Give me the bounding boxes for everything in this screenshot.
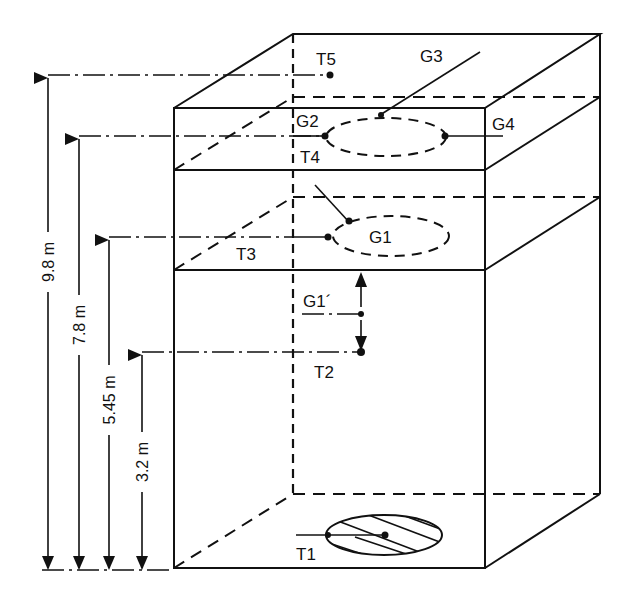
label-g4: G4 (492, 115, 515, 134)
sensor-g1-prime-t2: G1´ T2 (302, 272, 367, 382)
box-hidden-edges (174, 34, 600, 568)
dimension-7-8m: 7.8 m (71, 305, 88, 345)
label-t5: T5 (316, 50, 336, 69)
box-diagram: 9.8 m 7.8 m 5.45 m 3.2 m T5 G3 G2 (0, 0, 630, 604)
dimension-5-45m: 5.45 m (101, 376, 118, 425)
sensor-t1-floor-source: T1 (296, 505, 480, 564)
dimension-labels: 9.8 m 7.8 m 5.45 m 3.2 m (38, 232, 152, 492)
dimension-3-2m: 3.2 m (134, 442, 151, 482)
label-t2: T2 (314, 363, 334, 382)
diagram-canvas: 9.8 m 7.8 m 5.45 m 3.2 m T5 G3 G2 (0, 0, 630, 604)
box-visible-edges (174, 34, 600, 568)
dimension-9-8m: 9.8 m (40, 242, 57, 282)
label-t4: T4 (300, 148, 320, 167)
sensor-t5: T5 (316, 50, 336, 79)
upper-source-ellipse: G2 T4 G4 (293, 112, 515, 167)
label-t3: T3 (236, 245, 256, 264)
label-g3: G3 (420, 47, 443, 66)
label-g2: G2 (296, 112, 319, 131)
label-g1-prime: G1´ (303, 292, 331, 311)
label-g1: G1 (369, 228, 392, 247)
label-t1: T1 (296, 545, 316, 564)
